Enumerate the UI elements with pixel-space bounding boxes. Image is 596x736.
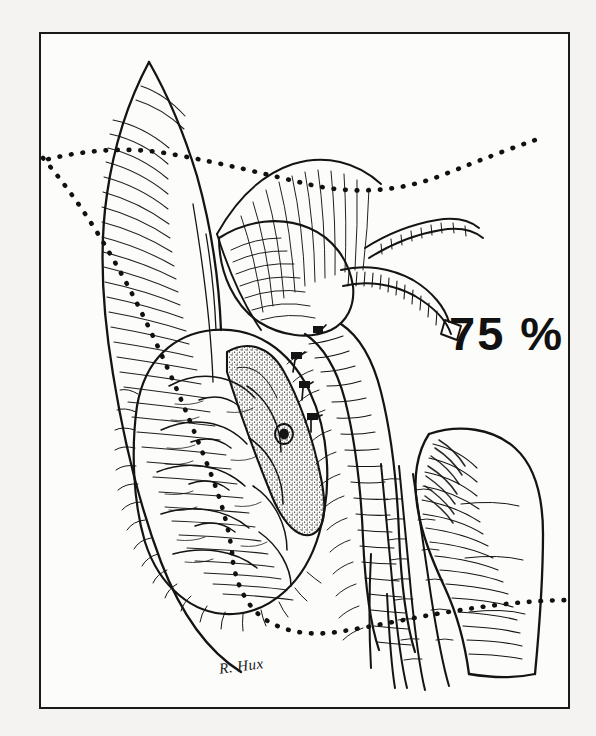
gda-stump <box>365 219 483 258</box>
plate-border: 75 % R. Hux <box>39 32 570 709</box>
omentum-hatching <box>241 170 369 312</box>
surgical-illustration <box>41 34 572 711</box>
stomach-hatching <box>102 86 293 600</box>
resection-percent-label: 75 % <box>449 306 564 361</box>
superior-mesenteric-vessels <box>370 464 450 690</box>
stomach-fold <box>193 204 216 382</box>
stomach <box>103 62 241 672</box>
illustration-page: 75 % R. Hux <box>0 0 596 736</box>
pyloric-antrum <box>219 221 353 335</box>
common-bile-duct <box>341 267 451 334</box>
figure-area: 75 % R. Hux <box>41 34 568 707</box>
bile-duct-bands <box>348 272 437 325</box>
gda-bands <box>381 223 466 254</box>
